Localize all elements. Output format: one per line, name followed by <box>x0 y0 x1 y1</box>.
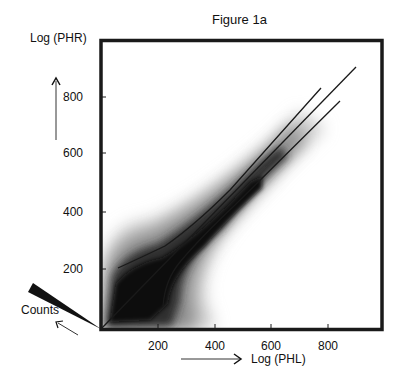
x-arrow-icon <box>181 354 241 364</box>
y-arrow-icon <box>52 78 60 140</box>
density-plot <box>0 0 403 387</box>
band-lines <box>101 67 356 329</box>
counts-wedge <box>28 283 101 329</box>
density-heatmap <box>101 112 325 329</box>
counts-arrow-icon <box>56 321 78 335</box>
diagonal-line <box>101 67 356 329</box>
